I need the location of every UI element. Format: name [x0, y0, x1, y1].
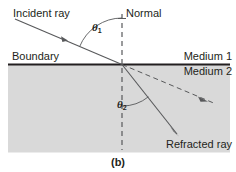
normal-label: Normal — [126, 8, 161, 19]
theta-1-symbol: θ — [92, 21, 98, 33]
boundary-label: Boundary — [12, 51, 59, 62]
medium-2-label: Medium 2 — [184, 66, 232, 77]
theta-2-subscript: 2 — [123, 104, 127, 111]
theta-1-label: θ1 — [92, 22, 102, 33]
refracted-ray-label: Refracted ray — [166, 139, 232, 150]
incident-ray-label: Incident ray — [13, 8, 70, 19]
theta-1-subscript: 1 — [98, 27, 102, 34]
figure-caption: (b) — [0, 157, 236, 168]
refraction-diagram: Incident ray Normal Boundary Medium 1 Me… — [0, 0, 236, 172]
theta-2-label: θ2 — [117, 99, 127, 110]
medium-1-label: Medium 1 — [184, 51, 232, 62]
theta-2-symbol: θ — [117, 98, 123, 110]
